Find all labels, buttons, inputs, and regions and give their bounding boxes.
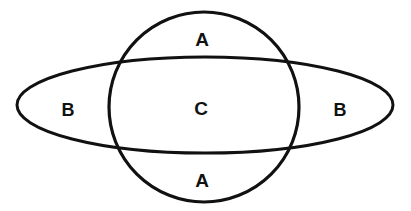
region-label-c-center: C: [194, 99, 208, 118]
region-label-b-left: B: [62, 101, 75, 119]
region-label-a-bottom: A: [195, 171, 209, 190]
venn-diagram-figure: A B C B A: [0, 0, 411, 211]
region-label-b-right: B: [334, 101, 347, 119]
region-label-a-top: A: [195, 30, 209, 49]
